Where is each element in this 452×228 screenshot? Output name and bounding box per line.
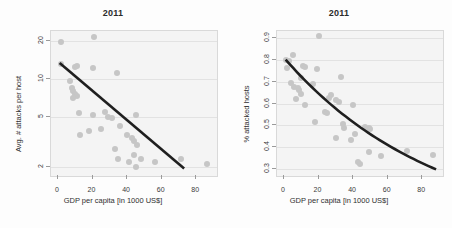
y-tick-mark <box>272 37 276 38</box>
x-tick-label: 80 <box>409 178 433 196</box>
x-tick-value: 60 <box>383 186 391 193</box>
x-tick-value: 40 <box>122 186 130 193</box>
y-tick-mark <box>272 81 276 82</box>
x-tick-mark <box>126 175 127 179</box>
plot-area-right <box>276 30 444 177</box>
x-tick-mark <box>57 175 58 179</box>
x-tick-value: 60 <box>157 186 165 193</box>
x-tick-label: 80 <box>183 178 207 196</box>
x-tick-mark <box>161 175 162 179</box>
x-tick-mark <box>283 175 284 179</box>
y-tick-value: 0.7 <box>262 74 272 88</box>
figure-container: 2011 251020020406080 Avg. # attacks per … <box>0 0 452 228</box>
y-tick-mark <box>272 168 276 169</box>
y-tick-mark <box>272 124 276 125</box>
x-tick-value: 20 <box>88 186 96 193</box>
x-axis-label-right: GDP per capita [in 1000 US$] <box>226 196 452 205</box>
x-tick-mark <box>421 175 422 179</box>
chart-title-left: 2011 <box>0 8 226 18</box>
x-tick-mark <box>387 175 388 179</box>
y-axis-label-left: Avg. # attacks per host <box>14 44 23 184</box>
y-tick-mark <box>46 166 50 167</box>
trend-line <box>51 31 217 176</box>
x-tick-label: 0 <box>45 178 69 196</box>
chart-panel-left: 2011 251020020406080 Avg. # attacks per … <box>0 0 226 228</box>
x-tick-label: 60 <box>149 178 173 196</box>
y-tick-value: 10 <box>36 71 46 85</box>
x-tick-mark <box>352 175 353 179</box>
y-tick-mark <box>46 116 50 117</box>
y-axis-label-right: % attacked hosts <box>242 44 251 184</box>
y-tick-value: 5 <box>36 109 46 123</box>
x-tick-value: 80 <box>191 186 199 193</box>
x-tick-label: 20 <box>306 178 330 196</box>
y-tick-value: 0.5 <box>262 117 272 131</box>
x-tick-label: 60 <box>375 178 399 196</box>
y-tick-mark <box>46 40 50 41</box>
plot-area-left <box>50 30 218 177</box>
x-tick-value: 0 <box>281 186 285 193</box>
y-tick-value: 0.6 <box>262 96 272 110</box>
y-tick-mark <box>272 103 276 104</box>
x-tick-mark <box>195 175 196 179</box>
y-tick-value: 0.3 <box>262 161 272 175</box>
y-tick-mark <box>46 78 50 79</box>
y-tick-value: 0.4 <box>262 139 272 153</box>
y-tick-value: 20 <box>36 33 46 47</box>
x-tick-value: 0 <box>55 186 59 193</box>
x-tick-value: 40 <box>348 186 356 193</box>
y-tick-mark <box>272 146 276 147</box>
x-tick-value: 80 <box>417 186 425 193</box>
x-tick-label: 40 <box>340 178 364 196</box>
x-tick-label: 40 <box>114 178 138 196</box>
x-tick-label: 20 <box>80 178 104 196</box>
y-tick-value: 2 <box>36 159 46 173</box>
y-tick-mark <box>272 59 276 60</box>
x-tick-value: 20 <box>314 186 322 193</box>
y-tick-value: 0.9 <box>262 30 272 44</box>
chart-title-right: 2011 <box>226 8 452 18</box>
x-axis-label-left: GDP per capita [in 1000 US$] <box>0 196 226 205</box>
x-tick-label: 0 <box>271 178 295 196</box>
x-tick-mark <box>92 175 93 179</box>
y-tick-value: 0.8 <box>262 52 272 66</box>
trend-line <box>277 31 443 176</box>
chart-panel-right: 2011 0.30.40.50.60.70.80.9020406080 % at… <box>226 0 452 228</box>
x-tick-mark <box>318 175 319 179</box>
